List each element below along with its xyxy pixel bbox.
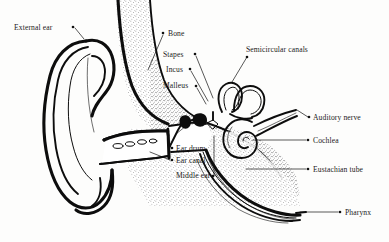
leader-semicircular-canals (232, 57, 247, 82)
ear-drum-structure (168, 129, 169, 158)
label-semicircular-canals: Semicircular canals (246, 45, 308, 54)
ear-anatomy-figure: External ear Bone Stapes Incus Malleus S… (0, 0, 389, 242)
label-stapes: Stapes (163, 50, 184, 59)
pinna (44, 40, 114, 213)
dot-external-ear (72, 26, 75, 29)
dot-pharynx (339, 211, 342, 214)
dot-bone (162, 32, 165, 35)
dot-malleus (195, 85, 198, 88)
label-eustachian-tube: Eustachian tube (313, 165, 364, 174)
label-incus: Incus (166, 65, 183, 74)
label-malleus: Malleus (163, 81, 188, 90)
auditory-nerve-structure (254, 110, 297, 136)
label-ear-drum: Ear drum (176, 144, 205, 153)
dot-semicircular-canals (246, 56, 249, 59)
dot-stapes (194, 53, 197, 56)
label-middle-ear: Middle ear (176, 171, 211, 180)
leader-auditory-nerve (297, 110, 308, 117)
dot-middle-ear (212, 175, 215, 178)
leader-stapes (196, 56, 213, 98)
semicircular-canals-structure (219, 83, 265, 119)
label-ear-canal: Ear canal (176, 156, 206, 165)
label-cochlea: Cochlea (313, 136, 339, 145)
ear-diagram-canvas: External ear Bone Stapes Incus Malleus S… (0, 0, 389, 242)
leader-incus (191, 71, 208, 101)
dot-ear-canal (171, 159, 174, 162)
dot-ear-drum (171, 147, 174, 150)
label-bone: Bone (168, 29, 185, 38)
dot-cochlea (307, 139, 310, 142)
label-auditory-nerve: Auditory nerve (313, 113, 361, 122)
leader-external-ear (75, 28, 84, 39)
dot-eustachian-tube (307, 168, 310, 171)
label-external-ear: External ear (14, 23, 53, 32)
leader-malleus (197, 88, 206, 104)
label-pharynx: Pharynx (345, 208, 371, 217)
dot-auditory-nerve (308, 116, 311, 119)
dot-incus (189, 68, 192, 71)
